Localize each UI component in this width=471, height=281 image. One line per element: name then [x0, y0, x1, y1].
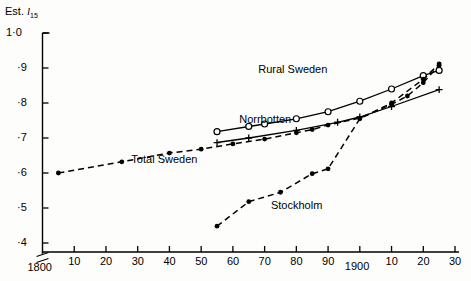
x-axis-tick-label: 40 — [163, 256, 175, 267]
data-point-open-circle — [214, 129, 220, 135]
x-axis-tick-label: 90 — [322, 256, 334, 267]
y-axis-tick-label: ·7 — [17, 132, 27, 143]
y-axis-title: Est. l15 — [5, 6, 38, 19]
data-point-dot — [278, 190, 283, 195]
series-stockholm — [215, 61, 442, 228]
data-point-dot — [199, 147, 204, 152]
data-point-open-circle — [436, 67, 442, 73]
x-axis-tick-label: 10 — [386, 256, 398, 267]
x-axis-tick-label: 50 — [195, 256, 207, 267]
chart-figure: Est. l15 1·0·9·8·7·6·5·4 180010203040506… — [0, 0, 471, 281]
series-label-rural-sweden: Rural Sweden — [258, 64, 327, 75]
data-point-open-circle — [293, 116, 299, 122]
x-axis-tick-label: 30 — [449, 256, 461, 267]
data-point-dot — [405, 94, 410, 99]
y-axis-tick-label: ·4 — [17, 237, 27, 248]
series-label-stockholm: Stockholm — [271, 200, 322, 211]
data-point-plus — [436, 86, 443, 93]
data-point-plus — [334, 119, 341, 126]
x-axis-tick-label: 60 — [227, 256, 239, 267]
x-axis-tick-label: 30 — [132, 256, 144, 267]
y-axis-tick-label: 1·0 — [6, 27, 22, 38]
x-axis-tick-label: 20 — [417, 256, 429, 267]
y-axis-tick-label: ·5 — [17, 202, 27, 213]
data-point-plus — [245, 135, 252, 142]
data-point-dot — [389, 101, 394, 106]
series-label-norrbotten: Norrbotten — [239, 114, 291, 125]
series-label-total-sweden: Total Sweden — [131, 154, 197, 165]
x-axis-tick-label: 70 — [259, 256, 271, 267]
data-point-dot — [310, 171, 315, 176]
data-point-dot — [119, 159, 124, 164]
data-point-dot — [246, 199, 251, 204]
data-point-dot — [230, 142, 235, 147]
data-point-open-circle — [389, 86, 395, 92]
axes-group — [37, 33, 460, 263]
x-axis-tick-label: 80 — [290, 256, 302, 267]
data-point-dot — [56, 171, 61, 176]
x-axis-tick-label: 1900 — [345, 261, 369, 272]
y-axis-title-subscript: 15 — [30, 12, 38, 19]
chart-canvas — [0, 0, 471, 281]
y-axis-title-prefix: Est. — [5, 5, 24, 17]
data-point-dot — [421, 77, 426, 82]
y-axis-tick-label: ·8 — [17, 97, 27, 108]
x-axis-tick-label: 1800 — [28, 262, 52, 273]
y-axis-tick-label: ·9 — [17, 62, 27, 73]
data-point-dot — [262, 137, 267, 142]
data-point-dot — [215, 224, 220, 229]
y-axis-tick-label: ·6 — [17, 167, 27, 178]
x-axis-tick-label: 20 — [100, 256, 112, 267]
data-point-plus — [214, 139, 221, 146]
data-point-open-circle — [357, 98, 363, 104]
data-point-dot — [357, 116, 362, 121]
data-point-dot — [326, 166, 331, 171]
data-point-open-circle — [325, 109, 331, 115]
data-point-dot — [437, 61, 442, 66]
x-axis-tick-label: 10 — [68, 256, 80, 267]
